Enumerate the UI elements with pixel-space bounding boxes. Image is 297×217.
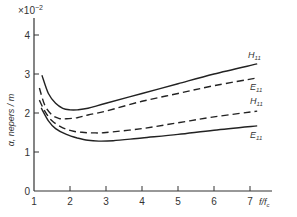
x-tick-label: 6 <box>211 196 217 207</box>
x-tick-label: 5 <box>175 196 181 207</box>
series-label: H11 <box>248 50 261 61</box>
y-tick-label: 2 <box>24 108 30 119</box>
y-tick-label: 4 <box>24 30 30 41</box>
x-axis-label: f/fc <box>259 197 270 208</box>
series-label: H11 <box>250 96 263 107</box>
y-tick-label: 0 <box>24 186 30 197</box>
y-tick-label: 1 <box>24 147 30 158</box>
y-axis-label: α, nepers / m <box>6 93 16 146</box>
attenuation-chart: 012341234567×10−2α, nepers / mf/fc H11E1… <box>0 0 297 217</box>
curve-h11-dashed <box>39 100 257 133</box>
x-tick-label: 7 <box>247 196 253 207</box>
x-tick-label: 1 <box>31 196 37 207</box>
series-label: E11 <box>250 82 262 93</box>
curve-e11-solid <box>41 108 257 141</box>
axes: 012341234567×10−2α, nepers / mf/fc <box>6 4 272 208</box>
x-tick-label: 4 <box>139 196 145 207</box>
curve-e11-dashed <box>39 78 257 119</box>
x-tick-label: 3 <box>103 196 109 207</box>
curve-h11-solid <box>42 64 257 110</box>
x-tick-label: 2 <box>67 196 73 207</box>
y-tick-label: 3 <box>24 69 30 80</box>
y-multiplier: ×10−2 <box>18 4 43 16</box>
series-label: E11 <box>250 130 262 141</box>
curves <box>39 64 257 141</box>
